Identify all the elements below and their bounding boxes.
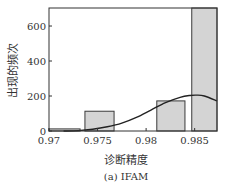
x-tick-label: 0.98 <box>135 135 157 146</box>
figure-caption: (a) IFAM <box>104 171 148 182</box>
y-tick-label: 600 <box>27 21 46 32</box>
x-tick-label: 0.97 <box>38 135 60 146</box>
y-axis-label: 出现的频次 <box>6 43 20 98</box>
y-tick-label: 400 <box>27 56 46 67</box>
histogram-bar <box>192 8 217 131</box>
y-axis-ticks: 0200400600 <box>27 21 52 137</box>
histogram-bars <box>49 8 217 131</box>
x-axis-label: 诊断精度 <box>104 153 148 167</box>
y-tick-label: 200 <box>27 91 46 102</box>
x-tick-label: 0.975 <box>83 135 112 146</box>
histogram-chart: 0200400600 0.970.9750.980.985 出现的频次 诊断精度… <box>0 0 225 187</box>
x-tick-label: 0.985 <box>180 135 209 146</box>
